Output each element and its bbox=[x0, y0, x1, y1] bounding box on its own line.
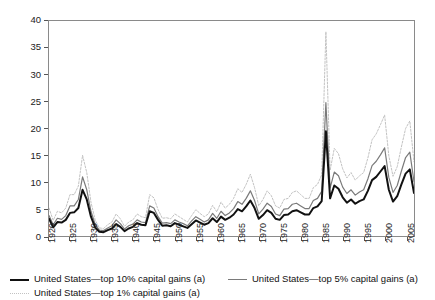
y-axis-tick-label: 15 bbox=[30, 151, 44, 161]
y-axis-tick: 35 bbox=[30, 41, 48, 53]
y-axis-tick-label: 10 bbox=[30, 178, 44, 188]
y-axis-tick-label: 25 bbox=[30, 97, 44, 107]
legend-item-label: United States—top 5% capital gains (a) bbox=[252, 274, 418, 284]
legend-line-icon bbox=[10, 274, 29, 284]
y-axis-tick-label: 35 bbox=[30, 42, 44, 52]
x-axis-tick-label: 1950 bbox=[175, 223, 184, 243]
x-axis-tick-label: 1920 bbox=[48, 223, 57, 243]
y-axis-tick: 25 bbox=[30, 95, 48, 107]
legend-item-label: United States—top 10% capital gains (a) bbox=[34, 274, 205, 284]
x-axis-tick-label: 1995 bbox=[364, 223, 373, 243]
y-axis-tick: 5 bbox=[36, 204, 48, 216]
x-axis-tick-label: 1965 bbox=[238, 223, 247, 243]
y-axis-tick-label: 30 bbox=[30, 70, 44, 80]
chart-figure: 0510152025303540 19201925193019351940194… bbox=[0, 0, 435, 300]
x-axis-tick-label: 1955 bbox=[196, 223, 205, 243]
legend-line-icon bbox=[10, 288, 29, 298]
y-axis-tick: 10 bbox=[30, 177, 48, 189]
x-axis-tick-label: 1990 bbox=[343, 223, 352, 243]
y-axis-tick: 20 bbox=[30, 123, 48, 135]
y-axis-tick: 30 bbox=[30, 68, 48, 80]
series-line bbox=[49, 103, 414, 231]
x-axis-tick-label: 2000 bbox=[385, 223, 394, 243]
y-axis-tick-label: 20 bbox=[30, 124, 44, 134]
x-axis-tick-label: 1960 bbox=[217, 223, 226, 243]
y-axis: 0510152025303540 bbox=[0, 20, 48, 237]
legend-item[interactable]: United States—top 1% capital gains (a) bbox=[10, 287, 200, 299]
x-axis-tick-label: 1980 bbox=[301, 223, 310, 243]
x-axis-tick-label: 1935 bbox=[111, 223, 120, 243]
y-axis-tick: 15 bbox=[30, 150, 48, 162]
x-axis-tick-label: 1985 bbox=[322, 223, 331, 243]
legend-line-icon bbox=[228, 274, 247, 284]
series-line bbox=[49, 131, 414, 232]
legend-item[interactable]: United States—top 10% capital gains (a) bbox=[10, 273, 205, 285]
y-axis-tick: 40 bbox=[30, 14, 48, 26]
y-axis-tick-label: 5 bbox=[36, 205, 44, 215]
x-axis-tick-label: 1975 bbox=[280, 223, 289, 243]
chart-legend: United States—top 10% capital gains (a)U… bbox=[6, 272, 435, 300]
x-axis-tick-label: 1930 bbox=[90, 223, 99, 243]
x-axis-tick-label: 1940 bbox=[132, 223, 141, 243]
y-axis-tick-label: 40 bbox=[30, 15, 44, 25]
y-axis-tick-label: 0 bbox=[36, 232, 44, 242]
series-line bbox=[49, 32, 414, 229]
plot-area bbox=[48, 20, 415, 237]
x-axis-tick-label: 1925 bbox=[69, 223, 78, 243]
series-layer bbox=[49, 21, 414, 236]
legend-item-label: United States—top 1% capital gains (a) bbox=[34, 288, 200, 298]
legend-item[interactable]: United States—top 5% capital gains (a) bbox=[228, 273, 418, 285]
x-axis-tick-label: 1970 bbox=[259, 223, 268, 243]
x-axis-tick-label: 2005 bbox=[407, 223, 416, 243]
x-axis-tick-label: 1945 bbox=[153, 223, 162, 243]
